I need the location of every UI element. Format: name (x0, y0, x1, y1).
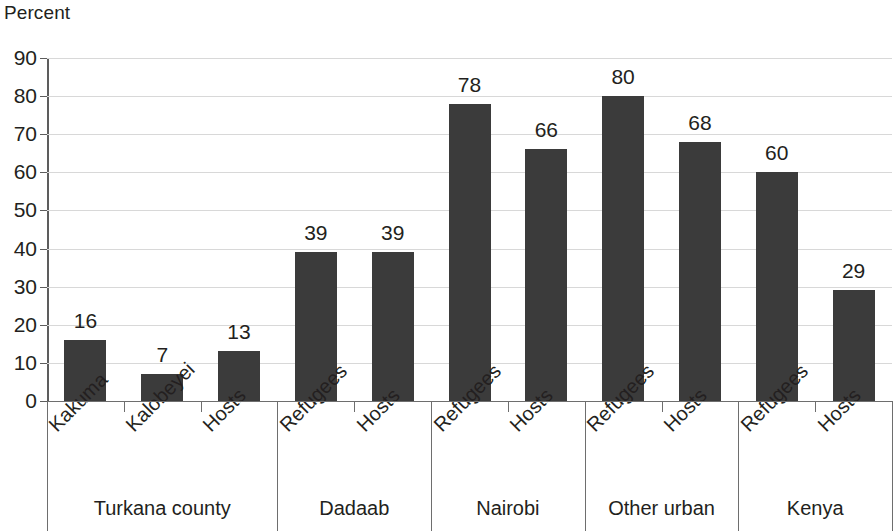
bar-value-label: 80 (583, 66, 663, 87)
bar-chart: Percent 9080706050403020100 167133939786… (0, 0, 896, 531)
group-label: Turkana county (47, 498, 277, 518)
group-label: Nairobi (431, 498, 585, 518)
bar-value-label: 29 (814, 260, 894, 281)
bar-value-label: 39 (276, 222, 356, 243)
y-tick-mark (40, 401, 47, 402)
y-tick-label: 70 (0, 123, 37, 144)
group-label: Other urban (585, 498, 739, 518)
x-tick-mark (124, 401, 125, 412)
bar-value-label: 7 (122, 344, 202, 365)
x-tick-mark (508, 401, 509, 412)
bar (449, 104, 491, 401)
bar (602, 96, 644, 401)
bar (833, 290, 875, 401)
y-axis-title: Percent (4, 2, 70, 24)
y-tick-mark (40, 96, 47, 97)
bar-value-label: 16 (45, 310, 125, 331)
group-separator (892, 401, 893, 531)
y-tick-mark (40, 287, 47, 288)
bar (525, 149, 567, 401)
group-label: Dadaab (277, 498, 431, 518)
x-axis-line (47, 401, 892, 402)
y-tick-label: 90 (0, 47, 37, 68)
y-tick-mark (40, 249, 47, 250)
y-tick-mark (40, 210, 47, 211)
gridline (47, 58, 892, 59)
y-tick-label: 20 (0, 314, 37, 335)
y-axis-line (47, 58, 49, 402)
x-tick-mark (201, 401, 202, 412)
y-tick-mark (40, 172, 47, 173)
y-tick-label: 10 (0, 352, 37, 373)
bar-value-label: 66 (506, 119, 586, 140)
bar-value-label: 13 (199, 321, 279, 342)
y-tick-label: 50 (0, 199, 37, 220)
x-tick-mark (354, 401, 355, 412)
y-tick-label: 0 (0, 390, 37, 411)
y-tick-mark (40, 58, 47, 59)
bar-value-label: 78 (430, 74, 510, 95)
bar (372, 252, 414, 401)
bar-value-label: 60 (737, 142, 817, 163)
x-tick-mark (662, 401, 663, 412)
y-tick-label: 40 (0, 238, 37, 259)
y-tick-mark (40, 363, 47, 364)
gridline (47, 96, 892, 97)
x-tick-mark (815, 401, 816, 412)
bar (679, 142, 721, 401)
bar-value-label: 39 (353, 222, 433, 243)
y-tick-label: 80 (0, 85, 37, 106)
bar-value-label: 68 (660, 112, 740, 133)
y-tick-mark (40, 134, 47, 135)
y-tick-label: 30 (0, 276, 37, 297)
group-label: Kenya (738, 498, 892, 518)
y-tick-label: 60 (0, 161, 37, 182)
